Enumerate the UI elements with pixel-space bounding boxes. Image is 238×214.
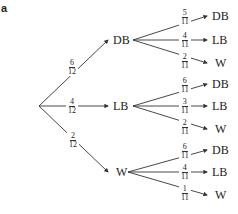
leaf-db-lb: LB <box>212 34 227 46</box>
node-l1-lb: LB <box>113 100 128 112</box>
prob-l1-w: 2 12 <box>67 132 79 149</box>
prob-w-db: 6 11 <box>179 143 191 160</box>
leaf-lb-lb: LB <box>212 100 227 112</box>
leaf-w-lb: LB <box>212 166 227 178</box>
prob-l1-db: 6 12 <box>66 59 78 76</box>
node-l1-db: DB <box>113 34 130 46</box>
prob-l1-lb: 4 12 <box>66 98 78 115</box>
prob-lb-w: 2 11 <box>179 119 191 136</box>
node-l1-w: W <box>116 166 127 178</box>
leaf-w-db: DB <box>212 144 229 156</box>
leaf-db-w: W <box>215 57 226 69</box>
leaf-lb-w: W <box>215 123 226 135</box>
prob-lb-db: 6 11 <box>179 77 191 94</box>
prob-db-w: 2 11 <box>179 53 191 70</box>
prob-w-lb: 4 11 <box>179 164 191 181</box>
prob-db-lb: 4 11 <box>179 32 191 49</box>
leaf-lb-db: DB <box>212 78 229 90</box>
prob-lb-lb: 3 11 <box>179 98 191 115</box>
tree-diagram: a DB LB W 6 12 4 12 2 12 5 11 4 11 2 11 … <box>0 0 238 214</box>
leaf-db-db: DB <box>212 10 229 22</box>
prob-w-w: 1 11 <box>179 185 191 202</box>
leaf-w-w: W <box>215 189 226 201</box>
prob-db-db: 5 11 <box>179 9 191 26</box>
